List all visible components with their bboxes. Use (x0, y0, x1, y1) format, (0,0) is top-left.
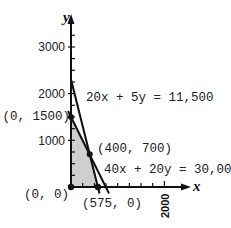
point-label-0-1500: (0, 1500) (2, 110, 70, 124)
linear-programming-chart: y x 3000 2000 1000 2000 20x + 5y = 11,50… (0, 0, 231, 228)
equation-label-2: 40x + 20y = 30,000 (104, 163, 231, 177)
point-label-400-700: (400, 700) (97, 142, 172, 156)
feasible-region (71, 117, 98, 187)
x-axis-arrow-icon (181, 184, 191, 191)
x-axis-label: x (192, 178, 201, 194)
x-tick-2000: 2000 (159, 194, 171, 218)
y-axis-label: y (61, 9, 70, 25)
equation-label-1: 20x + 5y = 11,500 (86, 91, 214, 105)
vertex-400-700 (87, 151, 93, 157)
y-tick-1000: 1000 (38, 134, 65, 148)
point-label-0-0: (0, 0) (24, 188, 69, 202)
vertex-575-0 (95, 184, 101, 190)
point-label-575-0: (575, 0) (82, 197, 142, 211)
y-tick-2000: 2000 (38, 87, 65, 101)
y-tick-3000: 3000 (38, 40, 65, 54)
